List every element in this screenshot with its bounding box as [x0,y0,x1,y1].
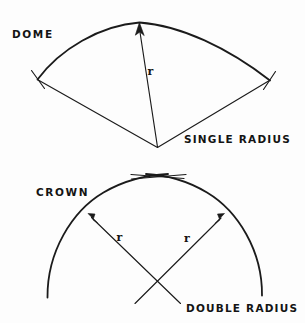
dome-figure: r DOME SINGLE RADIUS [12,23,291,148]
single-radius-label: SINGLE RADIUS [184,133,291,145]
crown-title-label: CROWN [36,186,89,198]
crown-right-radius-label: r [184,232,190,245]
crown-left-radius-label: r [117,231,123,244]
dome-right-tick-mark [264,72,276,90]
technical-drawing: r DOME SINGLE RADIUS r [0,0,305,323]
dome-radius-arrow-line [140,32,158,148]
dome-left-radius-line [38,80,158,148]
dome-title-label: DOME [12,28,54,40]
crown-left-radius-arrowhead [88,214,98,224]
crown-left-radius-line [92,218,181,304]
double-radius-label: DOUBLE RADIUS [186,302,298,314]
crown-right-radius-line [135,218,221,304]
crown-figure: r r CROWN DOUBLE RADIUS [36,174,298,314]
dome-arc [38,23,271,81]
dome-radius-label: r [148,65,154,78]
crown-right-radius-arrowhead [215,214,225,224]
diagram-canvas: r DOME SINGLE RADIUS r [0,0,305,323]
